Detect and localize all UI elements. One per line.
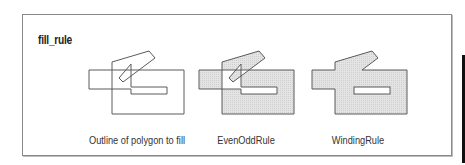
label-outline: Outline of polygon to fill — [89, 134, 185, 146]
polygon-winding — [312, 51, 407, 114]
label-evenodd: EvenOddRule — [217, 134, 275, 146]
polygon-outline — [89, 51, 184, 114]
label-winding: WindingRule — [332, 134, 384, 146]
polygon-evenodd — [199, 51, 294, 114]
